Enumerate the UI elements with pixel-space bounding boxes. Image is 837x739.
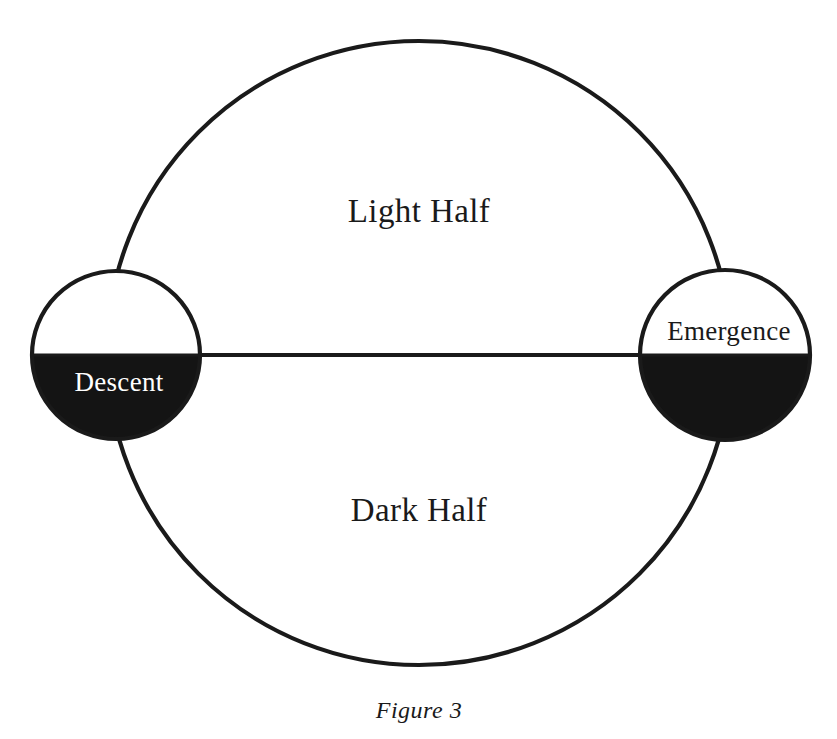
left-node-group xyxy=(32,271,200,439)
figure-caption: Figure 3 xyxy=(375,697,462,723)
dark-half-label: Dark Half xyxy=(351,492,487,528)
right-node-label: Emergence xyxy=(667,316,791,346)
right-node-dark-half xyxy=(640,355,810,440)
light-half-label: Light Half xyxy=(348,193,490,229)
right-node-group xyxy=(640,270,810,440)
cycle-diagram: Light Half Dark Half Descent Emergence F… xyxy=(0,0,837,739)
left-node-label: Descent xyxy=(74,367,163,397)
left-node-light-half xyxy=(32,271,200,355)
figure-container: Light Half Dark Half Descent Emergence F… xyxy=(0,0,837,739)
